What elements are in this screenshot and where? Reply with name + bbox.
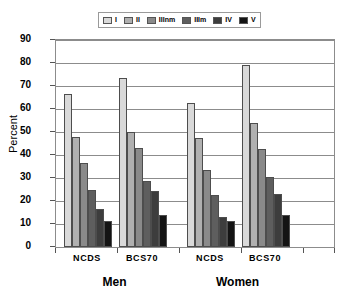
bar	[80, 163, 88, 247]
bar	[159, 215, 167, 247]
legend-swatch-icon-iv	[213, 17, 222, 24]
legend-label-iiinm: IIInm	[159, 16, 175, 24]
legend-item-i: I	[103, 16, 117, 24]
bar-group	[187, 40, 235, 247]
x-axis-separator	[334, 248, 335, 253]
bar-group	[119, 40, 167, 247]
bar	[242, 65, 250, 247]
legend-swatch-icon-i	[103, 17, 112, 24]
legend-item-iiim: IIIm	[182, 16, 206, 24]
y-axis-tick-label: 60	[5, 103, 31, 113]
bar	[127, 132, 135, 247]
plot-area	[55, 39, 335, 248]
bar-group	[242, 40, 290, 247]
x-axis-separator	[241, 248, 242, 253]
bar	[282, 215, 290, 247]
legend-swatch-icon-v	[239, 17, 248, 24]
legend-label-v: V	[251, 16, 256, 24]
bar	[266, 177, 274, 247]
bar	[64, 94, 72, 247]
bar	[143, 181, 151, 247]
bar	[203, 170, 211, 247]
legend-swatch-icon-ii	[124, 17, 133, 24]
bar	[88, 190, 96, 248]
bar	[135, 148, 143, 247]
bar	[250, 123, 258, 247]
x-axis-tick-label: BCS70	[112, 253, 172, 263]
bar	[96, 209, 104, 247]
y-axis-tick-label: 80	[5, 57, 31, 67]
legend-item-iiinm: IIInm	[147, 16, 175, 24]
y-axis-tick-label: 0	[5, 241, 31, 251]
x-axis-separator	[117, 248, 118, 253]
bar	[151, 191, 159, 247]
legend-label-iv: IV	[225, 16, 232, 24]
bar	[227, 221, 235, 247]
bar-chart: I II IIInm IIIm IV V Percent 90807060504…	[0, 0, 355, 302]
bar	[274, 194, 282, 247]
x-axis-tick-label: NCDS	[180, 253, 240, 263]
legend-label-ii: II	[136, 16, 140, 24]
bar-group	[64, 40, 112, 247]
bar	[258, 149, 266, 247]
bars-layer	[56, 40, 334, 247]
y-axis-tick-label: 10	[5, 218, 31, 228]
legend-swatch-icon-iiim	[182, 17, 191, 24]
x-axis-separator	[55, 248, 56, 253]
legend-label-i: I	[115, 16, 117, 24]
x-axis-group-label: Men	[75, 275, 155, 289]
legend-label-iiim: IIIm	[194, 16, 206, 24]
legend-item-v: V	[239, 16, 256, 24]
legend-swatch-icon-iiinm	[147, 17, 156, 24]
bar	[104, 221, 112, 247]
bar	[211, 195, 219, 247]
bar	[72, 137, 80, 247]
x-axis-separator	[303, 248, 304, 253]
x-axis-tick-label: BCS70	[235, 253, 295, 263]
chart-legend: I II IIInm IIIm IV V	[98, 12, 261, 28]
x-axis-group-label: Women	[198, 275, 278, 289]
bar	[219, 217, 227, 247]
legend-item-ii: II	[124, 16, 140, 24]
x-axis-tick-label: NCDS	[57, 253, 117, 263]
x-axis-separator	[179, 248, 180, 253]
bar	[187, 103, 195, 247]
bar	[195, 138, 203, 247]
legend-item-iv: IV	[213, 16, 232, 24]
y-axis-tick-label: 50	[5, 126, 31, 136]
y-axis-tick-label: 90	[5, 34, 31, 44]
y-axis-tick-label: 30	[5, 172, 31, 182]
bar	[119, 78, 127, 247]
y-axis-tick-label: 40	[5, 149, 31, 159]
y-axis-tick-label: 20	[5, 195, 31, 205]
y-axis-tick-label: 70	[5, 80, 31, 90]
